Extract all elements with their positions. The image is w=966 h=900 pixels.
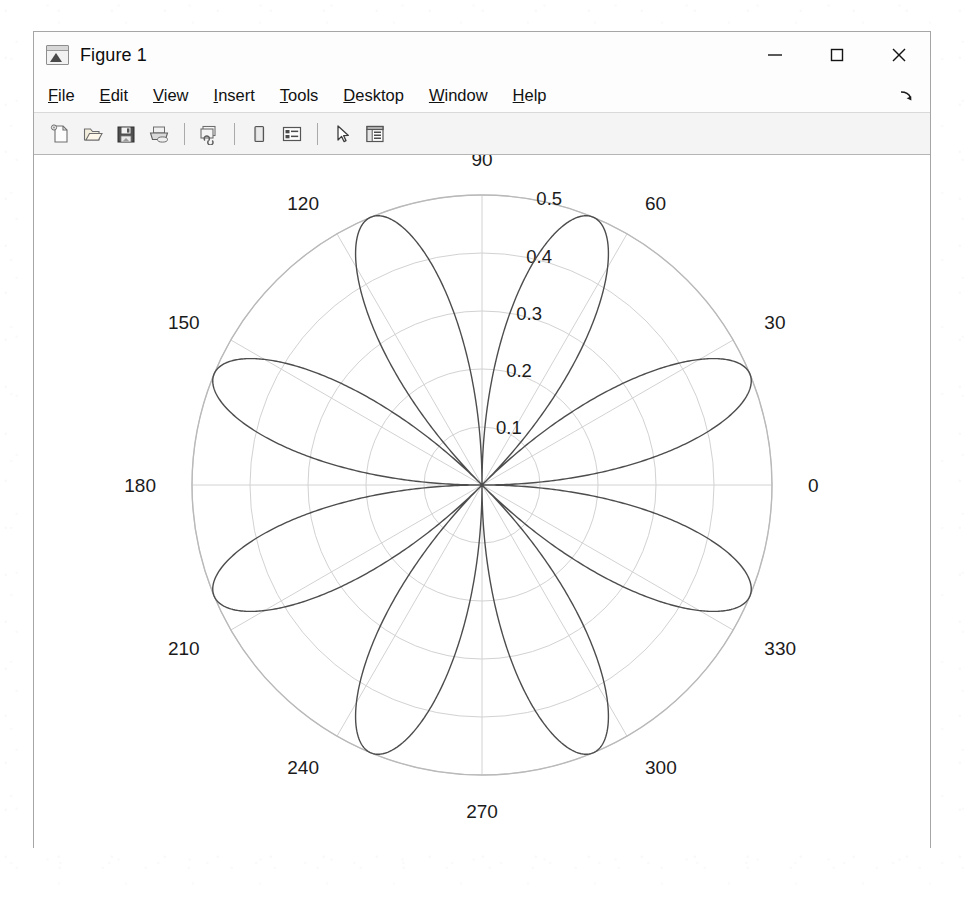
- grid-spoke: [337, 485, 482, 736]
- theta-tick-label: 0: [808, 475, 819, 496]
- menu-label-rest: esktop: [355, 86, 404, 104]
- open-file-icon[interactable]: [78, 119, 108, 149]
- theta-tick-label: 330: [764, 638, 796, 659]
- r-tick-label: 0.4: [526, 246, 552, 267]
- menu-mnemonic: W: [429, 86, 445, 104]
- grid-spoke: [231, 340, 482, 485]
- colorbar-icon[interactable]: [244, 119, 274, 149]
- menu-item-edit[interactable]: Edit: [100, 87, 128, 104]
- theta-tick-label: 180: [124, 475, 156, 496]
- toolbar-separator: [234, 123, 235, 145]
- menu-mnemonic: D: [343, 86, 355, 104]
- theta-tick-label: 210: [168, 638, 200, 659]
- print-figure-icon[interactable]: [144, 119, 174, 149]
- grid-spoke: [482, 485, 733, 630]
- polar-plot[interactable]: 0306090120150180210240270300330 0.10.20.…: [34, 155, 930, 848]
- title-bar: Figure 1: [34, 32, 930, 78]
- theta-tick-label: 270: [466, 801, 498, 822]
- undock-figure-arrow-icon[interactable]: [898, 88, 914, 104]
- menu-item-insert[interactable]: Insert: [214, 87, 255, 104]
- data-cursor-icon[interactable]: [327, 119, 357, 149]
- menu-mnemonic: F: [48, 86, 58, 104]
- theta-tick-label: 240: [287, 757, 319, 778]
- menu-item-view[interactable]: View: [153, 87, 188, 104]
- menu-item-help[interactable]: Help: [513, 87, 547, 104]
- window-title: Figure 1: [80, 45, 147, 66]
- close-button[interactable]: [868, 32, 930, 78]
- theta-tick-label: 150: [168, 312, 200, 333]
- theta-tick-label: 30: [764, 312, 785, 333]
- figure-window: Figure 1 File Edit View: [33, 31, 931, 848]
- link-plot-icon[interactable]: [194, 119, 224, 149]
- r-tick-label: 0.3: [516, 303, 542, 324]
- menu-label-rest: ools: [288, 86, 318, 104]
- minimize-button[interactable]: [744, 32, 806, 78]
- theta-tick-label: 90: [471, 155, 492, 170]
- theta-tick-label: 60: [645, 193, 666, 214]
- grid-spoke: [482, 234, 627, 485]
- toolbar-separator: [184, 123, 185, 145]
- r-tick-label: 0.5: [536, 188, 562, 209]
- plot-browser-icon[interactable]: [360, 119, 390, 149]
- menu-item-file[interactable]: File: [48, 87, 75, 104]
- toolbar: [34, 113, 930, 155]
- menu-label-rest: nsert: [218, 86, 255, 104]
- menu-mnemonic: V: [153, 86, 164, 104]
- window-controls: [744, 32, 930, 78]
- new-figure-icon[interactable]: [45, 119, 75, 149]
- menu-label-rest: ile: [58, 86, 75, 104]
- menu-label-rest: elp: [525, 86, 547, 104]
- r-tick-label: 0.1: [496, 417, 522, 438]
- menu-item-window[interactable]: Window: [429, 87, 488, 104]
- menu-label-rest: iew: [164, 86, 189, 104]
- menu-mnemonic: E: [100, 86, 111, 104]
- save-figure-icon[interactable]: [111, 119, 141, 149]
- grid-spoke: [482, 485, 627, 736]
- menu-item-tools[interactable]: Tools: [280, 87, 319, 104]
- grid-spoke: [337, 234, 482, 485]
- theta-tick-label: 300: [645, 757, 677, 778]
- menu-mnemonic: T: [280, 86, 288, 104]
- legend-icon[interactable]: [277, 119, 307, 149]
- r-tick-label: 0.2: [506, 360, 532, 381]
- theta-tick-label: 120: [287, 193, 319, 214]
- menu-bar: File Edit View Insert Tools Desktop Wind…: [34, 78, 930, 113]
- grid-spoke: [231, 485, 482, 630]
- menu-item-desktop[interactable]: Desktop: [343, 87, 404, 104]
- matlab-membrane-icon: [46, 45, 69, 65]
- menu-mnemonic: H: [513, 86, 525, 104]
- menu-label-rest: indow: [444, 86, 487, 104]
- toolbar-separator: [317, 123, 318, 145]
- maximize-button[interactable]: [806, 32, 868, 78]
- menu-label-rest: dit: [111, 86, 128, 104]
- figure-canvas: 0306090120150180210240270300330 0.10.20.…: [34, 155, 930, 848]
